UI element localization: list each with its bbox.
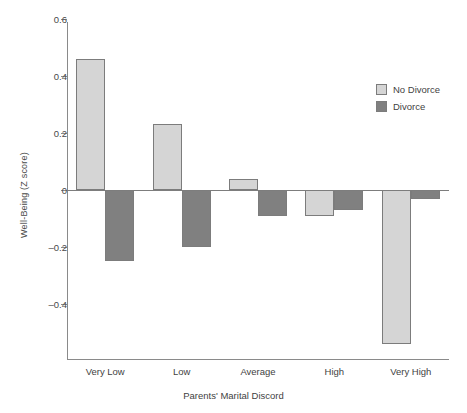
bar — [334, 190, 363, 210]
x-axis-label: Parents' Marital Discord — [0, 390, 467, 401]
x-tick-label: Low — [173, 366, 190, 377]
legend-item: Divorce — [376, 99, 440, 114]
zero-reference-line — [67, 190, 449, 191]
x-tick-label: Very Low — [86, 366, 125, 377]
y-tick-label: –0.2 — [23, 242, 67, 253]
y-tick-label: –0.4 — [23, 299, 67, 310]
chart-legend: No DivorceDivorce — [376, 82, 440, 116]
legend-item: No Divorce — [376, 82, 440, 97]
bar — [153, 124, 182, 190]
bar — [305, 190, 334, 216]
bar — [382, 190, 411, 344]
y-tick-label: 0.6 — [23, 14, 67, 25]
y-tick: –0.2 — [0, 247, 67, 248]
y-tick: 0.4 — [0, 76, 67, 77]
bar — [229, 179, 258, 190]
y-tick: 0.2 — [0, 133, 67, 134]
x-tick-label: Very High — [390, 366, 431, 377]
bar — [76, 59, 105, 190]
bar — [105, 190, 134, 261]
y-tick-label: 0 — [23, 185, 67, 196]
bar — [182, 190, 211, 247]
y-tick: –0.4 — [0, 304, 67, 305]
legend-label: No Divorce — [393, 84, 440, 95]
bar — [258, 190, 287, 216]
y-tick-label: 0.2 — [23, 128, 67, 139]
x-axis-line — [67, 359, 449, 360]
x-tick-label: High — [325, 366, 345, 377]
legend-swatch — [376, 101, 387, 112]
bar-chart-figure: Well-Being (Z score) 0.60.40.20–0.2–0.4 … — [0, 0, 467, 413]
y-tick-label: 0.4 — [23, 71, 67, 82]
bar — [411, 190, 440, 199]
y-tick: 0 — [0, 190, 67, 191]
x-tick-label: Average — [240, 366, 275, 377]
y-tick: 0.6 — [0, 19, 67, 20]
legend-swatch — [376, 84, 387, 95]
legend-label: Divorce — [393, 101, 425, 112]
